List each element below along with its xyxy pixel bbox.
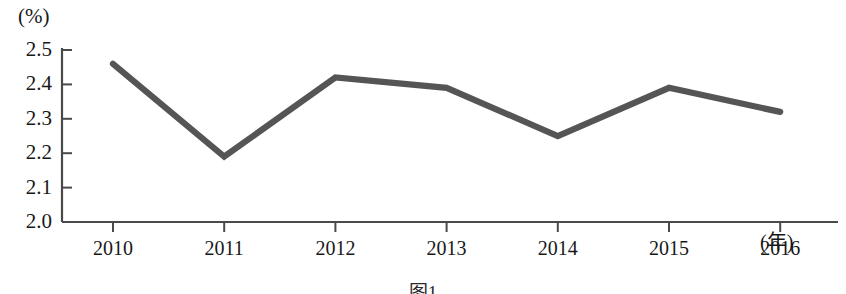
y-axis-tick-label: 2.3 [0, 108, 52, 129]
y-axis-tick-label: 2.2 [0, 142, 52, 163]
y-axis-tick-label: 2.5 [0, 39, 52, 60]
x-axis-tick-label: 2014 [538, 238, 578, 258]
y-axis-ticks [62, 50, 72, 222]
axes-group [62, 48, 838, 222]
x-axis-unit-label: (年) [760, 232, 793, 252]
chart-figure: (%) 2.52.42.32.22.12.0 20102011201220132… [0, 0, 846, 294]
y-axis-tick-label: 2.4 [0, 73, 52, 94]
figure-caption: 图1 [0, 283, 846, 294]
x-axis-tick-label: 2012 [315, 238, 355, 258]
y-axis-tick-label: 2.0 [0, 211, 52, 232]
x-axis-tick-label: 2013 [427, 238, 467, 258]
data-series-line [113, 64, 780, 157]
x-axis-tick-label: 2010 [93, 238, 133, 258]
x-axis-ticks [113, 222, 780, 232]
x-axis-tick-label: 2015 [649, 238, 689, 258]
y-axis-tick-label: 2.1 [0, 177, 52, 198]
x-axis-tick-label: 2011 [205, 238, 244, 258]
